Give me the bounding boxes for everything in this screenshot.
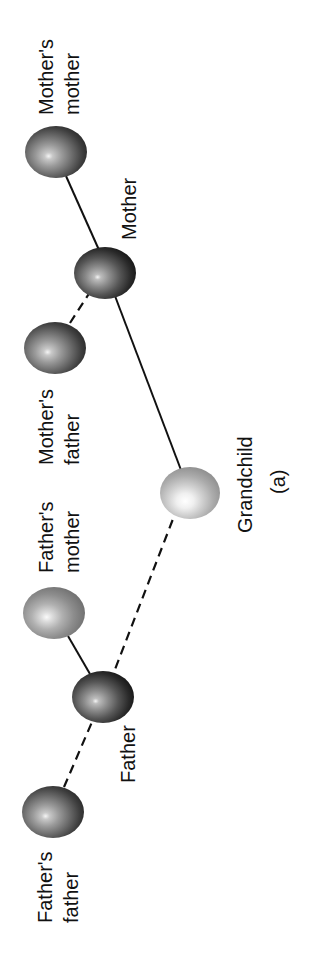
node-fathers-father	[22, 786, 84, 838]
node-mothers-father	[24, 322, 86, 374]
edge-mothers-mother-to-mother	[66, 176, 99, 250]
node-fathers-mother	[23, 587, 85, 639]
label-fathers-father-1: Father's	[34, 851, 56, 923]
sphere-icon	[24, 322, 86, 374]
edge-mothers-father-to-mother	[70, 292, 90, 323]
edge-mother-to-grandchild	[115, 296, 181, 470]
node-mother	[74, 247, 136, 299]
panel-label: (a)	[267, 470, 289, 494]
sphere-icon	[25, 126, 87, 178]
sphere-icon	[23, 587, 85, 639]
label-mothers-father-2: father	[61, 414, 83, 465]
sphere-icon	[72, 671, 134, 723]
sphere-icon	[160, 467, 220, 519]
edge-fathers-father-to-father	[64, 722, 92, 787]
pedigree-diagram: Mother's mother Mother Mother's father G…	[0, 0, 311, 960]
label-mothers-father-1: Mother's	[35, 389, 57, 465]
label-mothers-mother-2: mother	[61, 52, 83, 115]
label-fathers-father-2: father	[60, 872, 82, 923]
edge-fathers-mother-to-father	[68, 636, 90, 674]
label-mothers-mother-1: Mother's	[35, 39, 57, 115]
node-father	[72, 671, 134, 723]
label-fathers-mother-2: mother	[61, 510, 83, 573]
label-fathers-mother-1: Father's	[35, 501, 57, 573]
edge-father-to-grandchild	[114, 506, 178, 672]
node-mothers-mother	[25, 126, 87, 178]
node-grandchild	[160, 467, 220, 519]
sphere-icon	[22, 786, 84, 838]
label-grandchild: Grandchild	[234, 436, 256, 533]
sphere-icon	[74, 247, 136, 299]
label-mother: Mother	[118, 177, 140, 240]
label-father: Father	[117, 725, 139, 783]
